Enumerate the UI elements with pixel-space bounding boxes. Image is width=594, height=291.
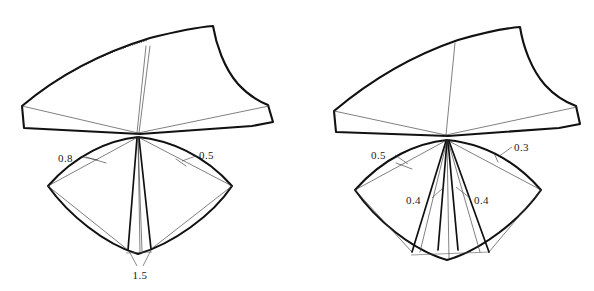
left-construction: 0.8 0.5 1.5 [22, 26, 273, 281]
right-dim-label-04-left: 0.4 [406, 194, 421, 206]
left-dim-label-08: 0.8 [58, 152, 73, 164]
left-upper-panel-outline [22, 26, 273, 134]
right-dim-label-05: 0.5 [371, 149, 386, 161]
right-dim-label-03: 0.3 [514, 141, 529, 153]
right-construction: 0.5 0.3 0.4 0.4 [334, 27, 580, 260]
left-dim-label-05: 0.5 [199, 149, 214, 161]
pattern-drafting-svg: 0.8 0.5 1.5 [0, 0, 594, 291]
right-dim-03-leader [498, 147, 512, 157]
diagram-root: 0.8 0.5 1.5 [0, 0, 594, 291]
left-dim-label-15: 1.5 [133, 269, 148, 281]
right-dim-label-04-right: 0.4 [474, 194, 489, 206]
right-upper-panel-outline [334, 27, 580, 136]
